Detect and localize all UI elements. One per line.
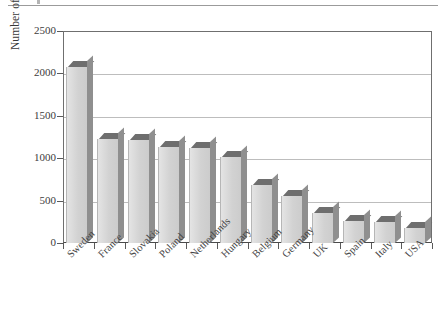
bar[interactable] xyxy=(97,139,118,243)
bar-face xyxy=(159,147,179,243)
x-axis-tick-mark xyxy=(371,243,372,249)
y-axis-tick-label: 1500 xyxy=(16,109,56,121)
chart-figure: Number of people per lawyer 050010001500… xyxy=(0,0,444,310)
x-axis-tick-mark xyxy=(63,243,64,249)
x-axis-tick-mark xyxy=(401,243,402,249)
y-axis-tick-label: 1000 xyxy=(16,151,56,163)
y-axis-tick-label: 2000 xyxy=(16,66,56,78)
bar-face xyxy=(190,148,210,243)
bar-face xyxy=(67,67,87,243)
bar[interactable] xyxy=(158,147,179,243)
x-axis-tick-mark xyxy=(309,243,310,249)
x-axis-tick-mark xyxy=(94,243,95,249)
x-axis-tick-mark xyxy=(432,243,433,249)
page-top-artifact xyxy=(37,0,40,4)
bar[interactable] xyxy=(312,213,333,243)
x-axis-tick-mark xyxy=(217,243,218,249)
bar-series xyxy=(63,31,432,243)
x-axis-tick-mark xyxy=(248,243,249,249)
x-axis-tick-mark xyxy=(155,243,156,249)
y-axis-tick-label: 0 xyxy=(16,236,56,248)
x-axis-label: UK xyxy=(311,241,330,260)
bar-face xyxy=(313,213,333,243)
x-axis-tick-mark xyxy=(278,243,279,249)
bar-face xyxy=(98,139,118,243)
bar[interactable] xyxy=(128,140,149,243)
x-axis-tick-mark xyxy=(125,243,126,249)
page-top-rule xyxy=(8,5,438,6)
x-axis-tick-mark xyxy=(340,243,341,249)
bar-face xyxy=(129,140,149,243)
y-axis-tick-label: 500 xyxy=(16,194,56,206)
bar[interactable] xyxy=(66,67,87,243)
x-axis-tick-mark xyxy=(186,243,187,249)
y-axis-tick-label: 2500 xyxy=(16,24,56,36)
bar[interactable] xyxy=(189,148,210,243)
